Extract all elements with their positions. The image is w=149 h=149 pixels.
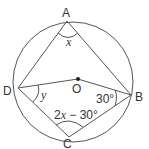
angle-label-c: 2x − 30°: [54, 108, 98, 122]
point-label-d: D: [3, 84, 12, 98]
center-point-dot: [76, 77, 80, 81]
angle-arc-b: [115, 90, 117, 106]
point-label-c: C: [63, 137, 72, 149]
angle-label-a: x: [65, 35, 72, 49]
circle-geometry-diagram: A B C D O x y 30° 2x − 30°: [0, 0, 149, 149]
point-label-a: A: [62, 6, 70, 20]
angle-arc-d: [33, 85, 39, 102]
angle-label-c-suffix: − 30°: [66, 108, 98, 122]
segment-a-d: [18, 21, 67, 88]
point-label-b: B: [135, 90, 143, 104]
segment-d-o: [18, 79, 78, 88]
center-label-o: O: [72, 82, 81, 96]
angle-label-b: 30°: [96, 92, 114, 106]
angle-label-d: y: [40, 88, 47, 102]
